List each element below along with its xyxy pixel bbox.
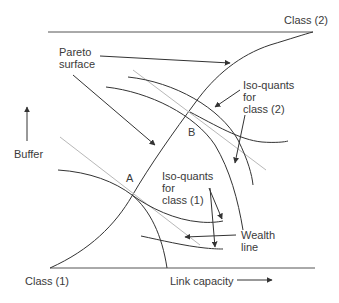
iso2-label-3: class (2) — [243, 103, 285, 115]
iso1-label-3: class (1) — [162, 194, 204, 206]
pareto-label-1: Pareto — [59, 46, 91, 58]
isoquant-class2-b — [190, 112, 288, 142]
pareto-arrow-top — [100, 56, 230, 63]
wealth-line-a — [60, 137, 200, 245]
link-capacity-label: Link capacity — [170, 275, 234, 287]
edgeworth-box-diagram — [0, 0, 339, 303]
iso1-label-2: for — [162, 182, 175, 194]
iso2-arrow-1 — [215, 90, 240, 107]
point-a-label: A — [126, 172, 133, 184]
class1-label: Class (1) — [25, 275, 69, 287]
isoquant-class2-inner — [106, 87, 243, 230]
class2-label: Class (2) — [284, 14, 328, 26]
isoquant-class1-lower — [141, 236, 223, 249]
buffer-label: Buffer — [14, 148, 43, 160]
wealth-arrow — [185, 235, 236, 237]
iso2-label-2: for — [243, 91, 256, 103]
point-b-label: B — [188, 126, 195, 138]
wealth-label-1: Wealth — [241, 229, 275, 241]
iso1-label-1: Iso-quants — [162, 170, 213, 182]
iso2-arrow-2 — [235, 115, 245, 163]
pareto-arrow-lower — [73, 75, 155, 145]
pareto-label-2: surface — [59, 58, 95, 70]
iso2-label-1: Iso-quants — [243, 79, 294, 91]
wealth-label-2: line — [241, 241, 258, 253]
